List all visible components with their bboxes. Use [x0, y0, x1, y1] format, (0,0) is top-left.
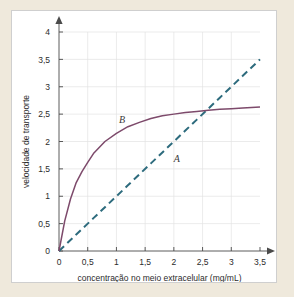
chart-area: 00,511,522,533,5 00,511,522,533,54 AB co… [12, 11, 276, 282]
y-tick-label: 2,5 [38, 109, 50, 119]
series-label-a: A [173, 153, 181, 164]
y-tick-label: 0,5 [38, 219, 50, 229]
series-annotations: AB [119, 114, 181, 164]
transport-kinetics-chart: 00,511,522,533,5 00,511,522,533,54 AB co… [12, 11, 276, 282]
data-series-group [59, 59, 260, 251]
series-line-a [59, 59, 260, 251]
y-tick-label: 3 [45, 82, 50, 92]
y-tick-label: 1 [45, 191, 50, 201]
gridlines [59, 32, 260, 251]
figure-card: 00,511,522,533,5 00,511,522,533,54 AB co… [11, 10, 277, 283]
y-tick-label: 2 [45, 137, 50, 147]
x-tick-label: 1,5 [139, 257, 151, 267]
y-tick-label: 1,5 [38, 164, 50, 174]
x-tick-label: 0,5 [82, 257, 94, 267]
x-axis-arrow-icon [267, 247, 275, 254]
x-tick-label: 2,5 [197, 257, 209, 267]
x-tick-label: 3 [229, 257, 234, 267]
x-axis-title: concentração no meio extracelular (mg/mL… [78, 273, 242, 282]
x-tick-label: 2 [171, 257, 176, 267]
x-tick-label: 3,5 [254, 257, 266, 267]
x-tick-label: 1 [114, 257, 119, 267]
x-tick-label: 0 [57, 257, 62, 267]
y-tick-label: 4 [45, 27, 50, 37]
series-label-b: B [119, 114, 125, 125]
y-tick-label: 3,5 [38, 55, 50, 65]
x-tick-labels: 00,511,522,533,5 [57, 257, 267, 267]
y-tick-labels: 00,511,522,533,54 [38, 27, 50, 256]
axes [55, 16, 275, 255]
series-line-b [59, 107, 260, 251]
y-axis-arrow-icon [55, 16, 62, 24]
y-tick-label: 0 [45, 246, 50, 256]
y-axis-title: velocidade de transporte [21, 95, 31, 188]
